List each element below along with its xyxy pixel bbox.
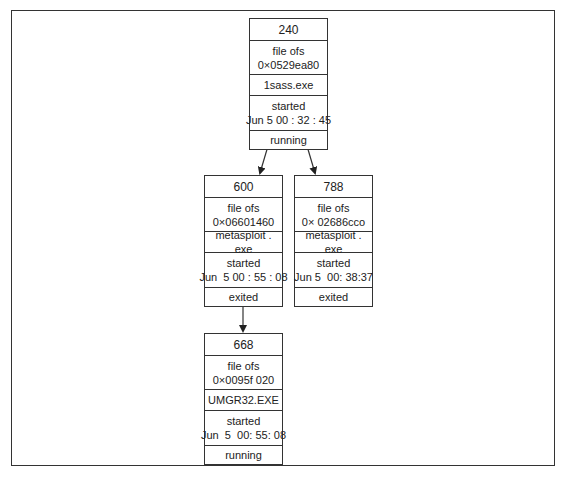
started-label: started xyxy=(317,256,351,270)
file-offset-cell: file ofs 0×06601460 xyxy=(205,197,282,231)
pid-cell: 668 xyxy=(205,334,282,355)
started-time: Jun 5 00 : 55 : 08 xyxy=(199,270,287,284)
status-label: exited xyxy=(319,290,348,304)
file-offset-label: file ofs xyxy=(228,359,260,373)
file-offset-value: 0×06601460 xyxy=(213,215,274,229)
process-name-cell: metasploit . exe xyxy=(205,231,282,252)
pid-label: 240 xyxy=(278,23,298,37)
file-offset-label: file ofs xyxy=(273,44,305,58)
status-label: running xyxy=(270,133,307,147)
file-offset-cell: file ofs 0×0095f 020 xyxy=(205,355,282,389)
started-label: started xyxy=(227,414,261,428)
status-cell: exited xyxy=(295,287,372,306)
edge-240-600 xyxy=(260,146,268,173)
file-offset-label: file ofs xyxy=(318,201,350,215)
file-offset-value: 0×0529ea80 xyxy=(258,58,319,72)
status-label: exited xyxy=(229,290,258,304)
process-name: metasploit . exe xyxy=(205,228,282,256)
process-name: metasploit . exe xyxy=(295,228,372,256)
started-cell: started Jun 5 00: 55: 08 xyxy=(205,410,282,445)
status-cell: running xyxy=(205,445,282,464)
status-label: running xyxy=(225,448,262,462)
pid-label: 668 xyxy=(233,338,253,352)
started-label: started xyxy=(227,256,261,270)
status-cell: running xyxy=(250,130,327,149)
pid-cell: 788 xyxy=(295,176,372,197)
pid-cell: 240 xyxy=(250,19,327,40)
file-offset-cell: file ofs 0×0529ea80 xyxy=(250,40,327,74)
pid-label: 600 xyxy=(233,180,253,194)
process-name: UMGR32.EXE xyxy=(208,393,279,407)
started-cell: started Jun 5 00 : 55 : 08 xyxy=(205,252,282,287)
started-label: started xyxy=(272,99,306,113)
started-time: Jun 5 00: 55: 08 xyxy=(201,428,286,442)
file-offset-label: file ofs xyxy=(228,201,260,215)
file-offset-cell: file ofs 0× 02686cco xyxy=(295,197,372,231)
status-cell: exited xyxy=(205,287,282,306)
pid-label: 788 xyxy=(323,180,343,194)
process-node-240: 240 file ofs 0×0529ea80 1sass.exe starte… xyxy=(249,18,328,150)
process-node-600: 600 file ofs 0×06601460 metasploit . exe… xyxy=(204,175,283,307)
pid-cell: 600 xyxy=(205,176,282,197)
file-offset-value: 0× 02686cco xyxy=(302,215,365,229)
process-node-668: 668 file ofs 0×0095f 020 UMGR32.EXE star… xyxy=(204,333,283,465)
process-name-cell: metasploit . exe xyxy=(295,231,372,252)
started-cell: started Jun 5 00 : 32 : 45 xyxy=(250,95,327,130)
process-name: 1sass.exe xyxy=(264,78,314,92)
file-offset-value: 0×0095f 020 xyxy=(213,373,274,387)
edge-240-788 xyxy=(307,146,315,173)
started-time: Jun 5 00: 38:37 xyxy=(294,270,373,284)
process-name-cell: 1sass.exe xyxy=(250,74,327,95)
process-name-cell: UMGR32.EXE xyxy=(205,389,282,410)
process-node-788: 788 file ofs 0× 02686cco metasploit . ex… xyxy=(294,175,373,307)
started-cell: started Jun 5 00: 38:37 xyxy=(295,252,372,287)
started-time: Jun 5 00 : 32 : 45 xyxy=(246,113,331,127)
